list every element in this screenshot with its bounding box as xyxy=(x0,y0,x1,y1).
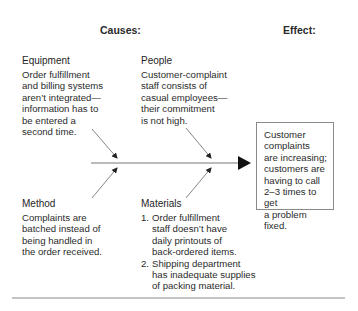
effect-text-line: are increasing; xyxy=(264,152,329,163)
effect-arrowhead xyxy=(238,156,251,170)
materials-branch xyxy=(186,168,211,198)
effect-text-line: complaints xyxy=(264,140,329,151)
effect-text-line: having to call xyxy=(264,175,329,186)
method-branch xyxy=(92,168,117,198)
effect-text-line: Customer xyxy=(264,129,329,140)
people-branch xyxy=(186,128,211,158)
effect-text-line: a problem fixed. xyxy=(264,209,329,232)
equipment-branch xyxy=(92,129,117,158)
effect-text-line: 2–3 times to get xyxy=(264,186,329,209)
effect-text-line: customers are xyxy=(264,163,329,174)
effect-box: Customer complaints are increasing; cust… xyxy=(256,122,334,210)
